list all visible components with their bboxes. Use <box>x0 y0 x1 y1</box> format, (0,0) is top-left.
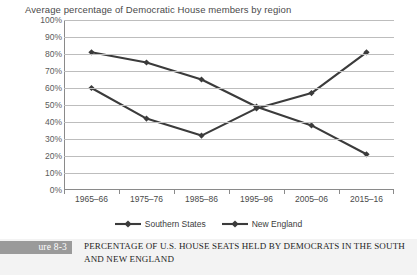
gridline <box>64 105 394 106</box>
y-tick-label: 0% <box>50 185 62 195</box>
y-tick-label: 80% <box>45 49 62 59</box>
figure-number-tag: ure 8-3 <box>0 241 72 254</box>
gridline <box>64 156 394 157</box>
legend-label: Southern States <box>145 219 206 229</box>
x-tick-label: 2015–16 <box>350 194 383 204</box>
legend-item: New England <box>222 219 303 229</box>
gridline <box>64 173 394 174</box>
x-axis-labels: 1965–661975–761985–861995–962005–062015–… <box>64 194 394 210</box>
y-tick-label: 20% <box>45 151 62 161</box>
gridline <box>64 122 394 123</box>
gridline <box>64 37 394 38</box>
y-tick-label: 100% <box>40 15 62 25</box>
chart-plot-area: 0%10%20%30%40%50%60%70%80%90%100% 1965–6… <box>0 20 417 205</box>
x-tick-label: 1965–66 <box>75 194 108 204</box>
legend-item: Southern States <box>115 219 206 229</box>
y-tick-label: 60% <box>45 83 62 93</box>
chart-title: Average percentage of Democratic House m… <box>25 4 291 15</box>
y-tick-label: 10% <box>45 168 62 178</box>
x-tick-label: 1985–86 <box>185 194 218 204</box>
y-tick-label: 90% <box>45 32 62 42</box>
figure-container: Average percentage of Democratic House m… <box>0 0 417 275</box>
y-tick-label: 50% <box>45 100 62 110</box>
y-tick-label: 70% <box>45 66 62 76</box>
x-tick-label: 2005–06 <box>295 194 328 204</box>
y-tick-label: 40% <box>45 117 62 127</box>
legend-label: New England <box>252 219 303 229</box>
gridline <box>64 71 394 72</box>
gridline <box>64 20 394 21</box>
plot-surface <box>64 20 394 190</box>
chart-legend: Southern StatesNew England <box>0 219 417 229</box>
y-axis-labels: 0%10%20%30%40%50%60%70%80%90%100% <box>18 20 62 190</box>
caption-bar: ure 8-3 PERCENTAGE OF U.S. HOUSE SEATS H… <box>0 239 417 275</box>
figure-caption: PERCENTAGE OF U.S. HOUSE SEATS HELD BY D… <box>84 240 409 265</box>
gridline <box>64 88 394 89</box>
legend-marker-icon <box>115 219 141 229</box>
gridline <box>64 54 394 55</box>
gridline <box>64 139 394 140</box>
y-tick-label: 30% <box>45 134 62 144</box>
x-tick-label: 1995–96 <box>240 194 273 204</box>
x-tick-label: 1975–76 <box>130 194 163 204</box>
legend-marker-icon <box>222 219 248 229</box>
data-point-marker <box>143 59 149 65</box>
